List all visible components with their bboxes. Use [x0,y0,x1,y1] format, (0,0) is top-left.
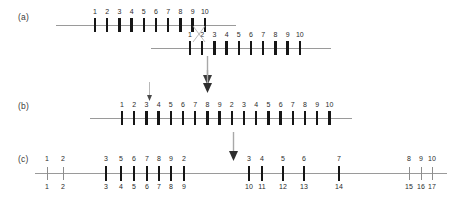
marker-17 [432,167,433,180]
tick-label-a-upper-10: 10 [201,8,209,16]
tick-label-b-5: 5 [169,101,173,109]
tick-label-a-lower-3: 3 [212,31,216,39]
tick-label-a-lower-5: 5 [237,31,241,39]
tick-label-a-upper-9: 9 [191,8,195,16]
panel-label-c: (c) [18,154,29,164]
marker-top-label-4: 5 [119,155,123,163]
tick-b-7 [194,111,197,125]
marker-top-label-12: 5 [281,155,285,163]
marker-12 [282,166,285,181]
marker-bottom-label-16: 16 [417,183,425,191]
tick-label-b-17: 9 [315,101,319,109]
marker-top-label-16: 9 [419,155,423,163]
tick-label-b-16: 8 [303,101,307,109]
marker-bottom-label-12: 12 [279,183,287,191]
marker-top-label-3: 3 [104,155,108,163]
tick-label-b-3: 3 [144,101,148,109]
marker-bottom-label-13: 13 [300,183,308,191]
tick-label-a-lower-8: 8 [273,31,277,39]
marker-14 [338,166,341,181]
marker-bottom-label-5: 5 [132,183,136,191]
tick-label-b-12: 4 [254,101,258,109]
tick-label-a-upper-8: 8 [178,8,182,16]
tick-label-a-lower-6: 6 [249,31,253,39]
tick-label-a-lower-4: 4 [225,31,229,39]
tick-a-upper-2 [106,18,109,32]
marker-9 [183,166,186,181]
marker-bottom-label-14: 14 [335,183,343,191]
tick-b-5 [170,111,173,125]
marker-1 [47,167,48,180]
tick-label-a-upper-4: 4 [130,8,134,16]
arrow-crossover-site-b [145,82,154,102]
arrow-b-to-c [227,132,240,162]
tick-a-upper-1 [94,18,97,32]
marker-16 [421,167,422,180]
tick-b-13 [267,111,270,125]
tick-a-lower-9 [286,41,289,55]
tick-b-18 [328,111,331,125]
marker-top-label-11: 4 [260,155,264,163]
tick-label-a-upper-7: 7 [166,8,170,16]
crossover-x [192,26,207,43]
tick-a-upper-5 [143,18,146,32]
arrow-breakpoint-b [201,70,214,94]
marker-15 [409,167,410,180]
tick-b-9 [218,111,221,125]
tick-b-8 [206,111,209,125]
tick-label-b-1: 1 [120,101,124,109]
marker-top-label-6: 7 [145,155,149,163]
marker-bottom-label-1: 1 [45,183,49,191]
tick-label-a-upper-3: 3 [117,8,121,16]
tick-b-6 [182,111,185,125]
marker-top-label-15: 8 [407,155,411,163]
marker-5 [133,166,136,181]
tick-label-a-upper-6: 6 [154,8,158,16]
marker-top-label-7: 8 [157,155,161,163]
marker-bottom-label-3: 3 [104,183,108,191]
tick-label-b-4: 4 [157,101,161,109]
marker-bottom-label-4: 4 [119,183,123,191]
tick-a-lower-1 [189,41,192,55]
tick-b-2 [133,111,136,125]
panel-label-a: (a) [18,12,29,22]
tick-label-b-18: 10 [325,101,333,109]
marker-top-label-9: 2 [182,155,186,163]
tick-b-4 [157,111,160,125]
marker-bottom-label-15: 15 [405,183,413,191]
marker-top-label-8: 9 [169,155,173,163]
tick-b-16 [304,111,307,125]
tick-label-b-14: 6 [279,101,283,109]
tick-label-b-13: 5 [266,101,270,109]
marker-11 [261,166,264,181]
tick-b-12 [255,111,258,125]
marker-bottom-label-17: 17 [428,183,436,191]
marker-10 [248,166,251,181]
chromosome-upper-line [56,25,236,26]
marker-top-label-17: 10 [428,155,436,163]
tick-b-14 [279,111,282,125]
tick-b-11 [243,111,246,125]
marker-bottom-label-11: 11 [258,183,265,191]
tick-a-upper-8 [179,18,182,32]
chromosome-lower-line [151,48,331,49]
tick-label-a-upper-5: 5 [142,8,146,16]
tick-label-a-lower-7: 7 [261,31,265,39]
marker-8 [170,166,173,181]
marker-bottom-label-10: 10 [245,183,253,191]
tick-b-17 [316,111,319,125]
tick-a-lower-10 [299,41,302,55]
tick-a-upper-7 [167,18,170,32]
tick-label-a-upper-1: 1 [93,8,97,16]
tick-a-lower-3 [213,41,216,55]
marker-top-label-10: 3 [247,155,251,163]
tick-a-lower-2 [201,41,204,55]
marker-4 [120,166,123,181]
tick-label-b-9: 9 [218,101,222,109]
marker-bottom-label-8: 8 [169,183,173,191]
tick-b-10 [231,111,234,125]
marker-top-label-13: 6 [302,155,306,163]
tick-a-lower-5 [238,41,241,55]
tick-b-1 [121,111,124,125]
tick-label-a-lower-9: 9 [286,31,290,39]
